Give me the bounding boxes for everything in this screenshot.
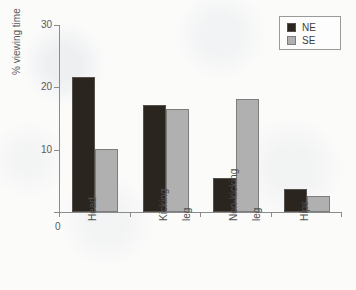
legend-swatch-se <box>287 36 296 45</box>
x-tick-1 <box>130 212 131 217</box>
x-label-kicking-leg-0: Kicking <box>159 189 169 221</box>
legend-swatch-ne <box>287 23 296 32</box>
x-label-kicking-leg-1: leg <box>182 208 192 221</box>
y-tick-20 <box>54 87 59 88</box>
legend-item-ne: NE <box>287 21 340 34</box>
x-tick-3 <box>271 212 272 217</box>
x-label-non-kicking-leg-1: leg <box>252 208 262 221</box>
y-tick-label-10: 10 <box>12 145 52 155</box>
origin-zero-label: 0 <box>55 221 61 232</box>
plot-area: % viewing time 102030 HeadKickinglegNon-… <box>59 25 341 212</box>
legend-item-se: SE <box>287 34 340 47</box>
caption-strip <box>0 276 356 290</box>
bar-se-head <box>95 149 118 212</box>
x-label-non-kicking-leg-0: Non-kicking <box>229 169 239 221</box>
x-tick-2 <box>200 212 201 217</box>
legend-label-se: SE <box>302 36 315 46</box>
legend-label-ne: NE <box>302 23 316 33</box>
x-tick-0 <box>59 212 60 217</box>
y-tick-label-20: 20 <box>12 82 52 92</box>
y-tick-30 <box>54 25 59 26</box>
figure-bar-chart: % viewing time 102030 HeadKickinglegNon-… <box>0 0 356 290</box>
bar-ne-head <box>72 77 95 212</box>
bar-se-non-kicking-leg <box>236 99 259 212</box>
y-axis-line <box>59 25 60 212</box>
x-label-hips-0: Hips <box>300 201 310 221</box>
y-tick-10 <box>54 150 59 151</box>
y-axis-title: % viewing time <box>11 8 22 75</box>
x-label-head-0: Head <box>88 197 98 221</box>
chart-legend: NE SE <box>279 16 341 50</box>
y-tick-label-30: 30 <box>12 20 52 30</box>
x-tick-4 <box>341 212 342 217</box>
